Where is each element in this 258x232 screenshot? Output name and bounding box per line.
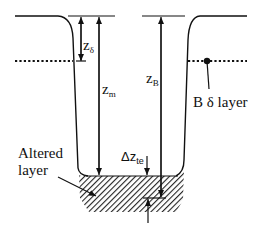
altered-layer-region bbox=[79, 168, 184, 212]
crater-diagram bbox=[0, 0, 258, 232]
delta-zte-label: Δzte bbox=[121, 149, 144, 169]
z-b-label: zB bbox=[146, 71, 159, 91]
altered-layer-label-line2: layer bbox=[18, 163, 48, 178]
b-delta-layer-label: B δ layer bbox=[193, 95, 248, 110]
z-m-label: zm bbox=[102, 82, 116, 102]
altered-layer-label-line1: Altered bbox=[18, 146, 63, 161]
b-delta-layer-leader bbox=[207, 61, 209, 89]
z-delta-label: zδ bbox=[83, 38, 94, 58]
